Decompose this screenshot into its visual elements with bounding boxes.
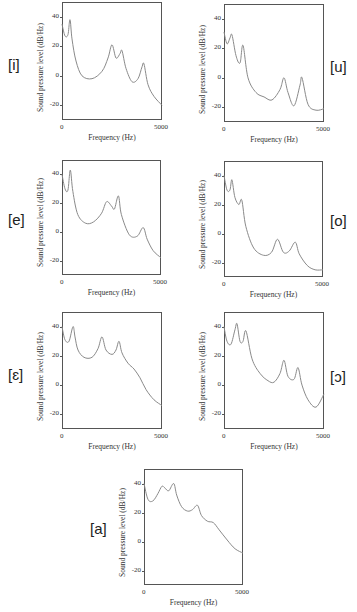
spectrum-line xyxy=(0,0,357,612)
vowel-label: [a] xyxy=(90,520,107,537)
